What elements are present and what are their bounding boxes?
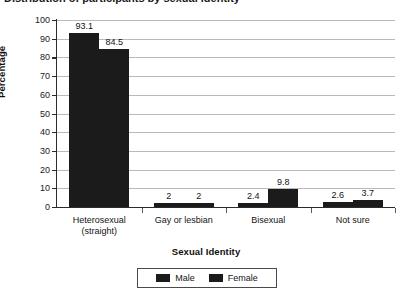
x-axis-title: Sexual Identity — [0, 246, 412, 257]
y-axis-label: 40 — [20, 128, 50, 137]
y-axis-label: 0 — [20, 203, 50, 212]
bar-male-1 — [154, 203, 184, 207]
legend-swatch-icon — [156, 274, 170, 282]
bar-value-label: 2.4 — [232, 192, 274, 201]
chart-legend: MaleFemale — [137, 268, 277, 288]
x-axis-tick — [311, 208, 312, 213]
y-axis-label: 10 — [20, 184, 50, 193]
x-axis-tick — [395, 208, 396, 213]
x-axis-category-line: (straight) — [57, 226, 142, 237]
y-axis-label: 100 — [20, 16, 50, 25]
x-axis-category-label: Heterosexual(straight) — [57, 215, 142, 237]
x-axis-tick — [226, 208, 227, 213]
y-axis-label: 80 — [20, 53, 50, 62]
y-axis-label: 90 — [20, 35, 50, 44]
y-axis-tick — [52, 76, 57, 77]
bar-value-label: 84.5 — [93, 38, 135, 47]
bar-chart: Percentage Sexual Identity MaleFemale 10… — [0, 0, 412, 296]
x-axis-category-label: Not sure — [311, 215, 396, 226]
y-axis-tick — [52, 132, 57, 133]
x-axis-category-line: Gay or lesbian — [142, 215, 227, 226]
x-axis-category-line: Not sure — [311, 215, 396, 226]
x-axis-category-label: Bisexual — [226, 215, 311, 226]
y-axis-tick — [52, 151, 57, 152]
y-axis-tick — [52, 39, 57, 40]
y-axis-label: 50 — [20, 110, 50, 119]
y-axis-tick — [52, 207, 57, 208]
bar-male-2 — [238, 203, 268, 207]
y-axis-tick — [52, 20, 57, 21]
bar-value-label: 93.1 — [63, 22, 105, 31]
x-axis-category-label: Gay or lesbian — [142, 215, 227, 226]
legend-label: Female — [228, 274, 258, 283]
y-axis-tick — [52, 170, 57, 171]
legend-item-female[interactable]: Female — [209, 274, 258, 283]
y-axis-label: 20 — [20, 166, 50, 175]
bar-male-3 — [323, 202, 353, 207]
bar-series-container — [57, 20, 395, 207]
legend-label: Male — [175, 274, 195, 283]
x-axis-tick — [142, 208, 143, 213]
bar-female-1 — [184, 203, 214, 207]
bar-male-0 — [69, 33, 99, 207]
y-axis-tick — [52, 114, 57, 115]
bar-value-label: 9.8 — [262, 178, 304, 187]
legend-item-male[interactable]: Male — [156, 274, 195, 283]
y-axis-tick — [52, 57, 57, 58]
y-axis-tick — [52, 95, 57, 96]
y-axis-tick — [52, 188, 57, 189]
x-axis-category-line: Bisexual — [226, 215, 311, 226]
bar-value-label: 2 — [178, 192, 220, 201]
y-axis-title: Percentage — [0, 46, 7, 98]
y-axis-label: 30 — [20, 147, 50, 156]
bar-female-0 — [99, 49, 129, 207]
bar-female-3 — [353, 200, 383, 207]
bar-value-label: 3.7 — [347, 189, 389, 198]
y-axis-label: 70 — [20, 72, 50, 81]
x-axis-category-line: Heterosexual — [57, 215, 142, 226]
y-axis-label: 60 — [20, 91, 50, 100]
legend-swatch-icon — [209, 274, 223, 282]
